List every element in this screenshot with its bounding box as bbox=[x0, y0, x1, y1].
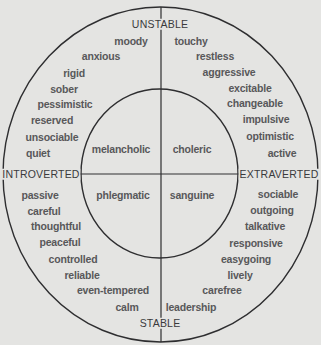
trait-word: responsive bbox=[229, 238, 282, 249]
trait-word: reserved bbox=[31, 115, 73, 126]
trait-word: careful bbox=[27, 206, 60, 217]
trait-word: touchy bbox=[174, 36, 207, 47]
personality-diagram: UNSTABLE STABLE INTROVERTED EXTRAVERTED … bbox=[0, 0, 321, 345]
temperament-sanguine: sanguine bbox=[170, 190, 215, 201]
trait-word: sober bbox=[50, 84, 78, 95]
trait-word: active bbox=[268, 148, 297, 159]
temperament-melancholic: melancholic bbox=[92, 144, 151, 155]
trait-word: restless bbox=[196, 51, 234, 62]
trait-word: passive bbox=[21, 190, 58, 201]
trait-word: peaceful bbox=[40, 237, 81, 248]
trait-word: controlled bbox=[49, 254, 98, 265]
trait-word: impulsive bbox=[243, 114, 290, 125]
trait-word: pessimistic bbox=[38, 99, 93, 110]
trait-word: calm bbox=[115, 302, 138, 313]
trait-word: unsociable bbox=[26, 132, 79, 143]
trait-word: reliable bbox=[64, 270, 99, 281]
trait-word: thoughtful bbox=[31, 221, 81, 232]
trait-word: even-tempered bbox=[77, 285, 149, 296]
axis-label-unstable: UNSTABLE bbox=[131, 19, 189, 30]
trait-word: talkative bbox=[245, 221, 285, 232]
trait-word: anxious bbox=[82, 51, 120, 62]
trait-word: leadership bbox=[166, 302, 217, 313]
axis-label-introverted: INTROVERTED bbox=[1, 169, 80, 180]
axis-label-extraverted: EXTRAVERTED bbox=[239, 169, 320, 180]
trait-word: lively bbox=[227, 270, 252, 281]
trait-word: moody bbox=[114, 36, 147, 47]
trait-word: aggressive bbox=[203, 67, 256, 78]
axis-label-stable: STABLE bbox=[139, 318, 182, 329]
trait-word: excitable bbox=[228, 83, 271, 94]
trait-word: carefree bbox=[202, 285, 241, 296]
trait-word: rigid bbox=[63, 68, 85, 79]
trait-word: easygoing bbox=[221, 254, 271, 265]
trait-word: sociable bbox=[258, 189, 298, 200]
trait-word: changeable bbox=[227, 98, 283, 109]
trait-word: outgoing bbox=[250, 205, 293, 216]
temperament-choleric: choleric bbox=[173, 144, 212, 155]
trait-word: quiet bbox=[26, 148, 50, 159]
trait-word: optimistic bbox=[246, 131, 294, 142]
temperament-phlegmatic: phlegmatic bbox=[96, 190, 149, 201]
